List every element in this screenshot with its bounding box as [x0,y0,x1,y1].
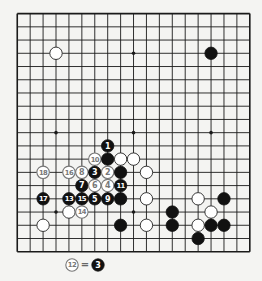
move-number: 12 [68,261,77,269]
black-stone [101,153,113,165]
white-stone-14: 14 [76,206,88,218]
black-stone [114,193,126,205]
black-stone-5: 5 [89,193,101,205]
equals-sign: = [81,259,89,270]
white-stone-10: 10 [89,153,101,165]
black-stone [114,219,126,231]
move-number: 10 [91,156,100,164]
move-number: 3 [92,168,98,177]
star-point [132,51,136,55]
move-caption: 12=3 [66,259,104,271]
white-stone [192,219,204,231]
black-stone-11: 11 [114,179,126,191]
black-stone [166,219,178,231]
move-number: 11 [116,182,125,190]
black-stone-7: 7 [76,179,88,191]
white-stone-4: 4 [101,179,113,191]
star-point [54,210,58,214]
move-number: 1 [105,142,111,151]
white-stone [205,206,217,218]
white-stone [140,166,152,178]
black-stone [205,219,217,231]
move-number: 8 [79,168,85,177]
black-stone [192,232,204,244]
black-stone [218,193,230,205]
white-stone [127,153,139,165]
white-stone-12: 12 [66,259,78,271]
black-stone-3: 3 [92,259,104,271]
move-number: 6 [92,181,98,190]
move-number: 2 [105,168,111,177]
white-stone [140,193,152,205]
white-stone [63,206,75,218]
move-number: 13 [65,195,74,203]
black-stone-13: 13 [63,193,75,205]
black-stone-17: 17 [37,193,49,205]
star-point [132,210,136,214]
white-stone-16: 16 [63,166,75,178]
move-number: 17 [39,195,48,203]
white-stone [50,47,62,59]
black-stone [166,206,178,218]
black-stone [114,166,126,178]
move-number: 9 [105,195,111,204]
go-board-diagram: 1101816832764111713155914 12=3 12 = 3 [0,0,262,281]
white-stone-18: 18 [37,166,49,178]
white-stone-8: 8 [76,166,88,178]
black-stone-3: 3 [89,166,101,178]
star-point [54,131,58,135]
move-number: 18 [39,169,48,177]
move-number: 7 [79,181,85,190]
move-number: 5 [92,195,98,204]
white-stone-6: 6 [89,179,101,191]
move-number: 4 [105,181,111,190]
black-stone-15: 15 [76,193,88,205]
black-stone-1: 1 [101,140,113,152]
black-stone-9: 9 [101,193,113,205]
move-number: 14 [78,208,87,216]
black-stone [218,219,230,231]
go-board: 1101816832764111713155914 12=3 [0,0,262,281]
white-stone [140,219,152,231]
star-point [209,131,213,135]
black-stone [205,47,217,59]
white-stone-2: 2 [101,166,113,178]
star-point [132,131,136,135]
move-number: 15 [78,195,87,203]
white-stone [114,153,126,165]
move-number: 3 [95,261,101,270]
white-stone [37,219,49,231]
move-number: 16 [65,169,74,177]
white-stone [192,193,204,205]
